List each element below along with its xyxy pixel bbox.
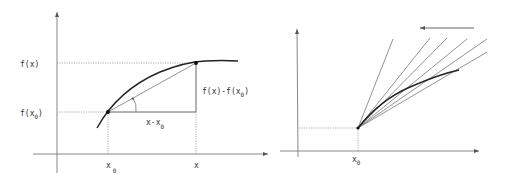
point-x [194,61,198,65]
secant-line [108,63,196,112]
label-delta-y: f(x)-f(x0) [202,87,249,98]
label-fx: f(x) [20,60,39,69]
angle-arc [133,98,136,112]
label-delta-x: x-x0 [146,118,164,130]
secant-line-5 [358,39,487,128]
secant-lines [358,38,487,128]
secant-line-6 [358,52,487,128]
secant-line-1 [358,39,393,128]
label-fx0: f(x0) [20,109,43,120]
point-x0 [106,110,110,114]
label-x: x [194,161,199,170]
secant-tangent-diagram: f(x) f(x0) x0 x x-x0 f(x)-f(x0) x0 [0,0,510,181]
right-point-x0 [356,126,359,129]
left-panel: f(x) f(x0) x0 x x-x0 f(x)-f(x0) [20,12,268,174]
right-panel: x0 [280,28,487,166]
secant-line-4 [358,39,467,128]
right-label-x0: x0 [352,155,361,166]
right-y-axis [297,29,298,157]
label-x0: x0 [106,161,117,174]
